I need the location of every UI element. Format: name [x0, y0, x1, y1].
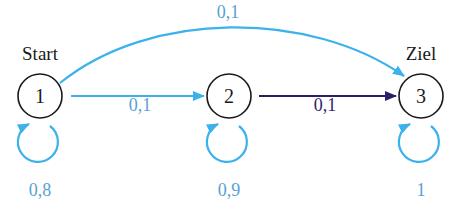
self-loop-2: 0,9 — [207, 124, 247, 200]
loop-arrow — [399, 124, 439, 162]
node-3: 3 Ziel — [399, 43, 443, 118]
edge-2-to-3: 0,1 — [259, 95, 396, 115]
markov-chain-diagram: 0,1 0,1 0,1 0,8 0,9 1 1 Start 2 3 Ziel — [0, 0, 454, 208]
loop-arrow — [207, 124, 247, 162]
edge-1-to-3: 0,1 — [60, 2, 404, 83]
edge-label-1-3: 0,1 — [217, 2, 240, 22]
loop-label-1: 0,8 — [29, 180, 52, 200]
node-number: 2 — [224, 85, 234, 107]
node-number: 3 — [416, 85, 426, 107]
state-name-goal: Ziel — [406, 43, 437, 64]
state-name-start: Start — [22, 43, 59, 64]
edge-label-2-3: 0,1 — [314, 95, 337, 115]
self-loop-1: 0,8 — [18, 124, 58, 200]
loop-arrow — [18, 124, 58, 162]
loop-label-3: 1 — [417, 180, 426, 200]
node-2: 2 — [207, 74, 251, 118]
edge-label-1-2: 0,1 — [129, 95, 152, 115]
node-number: 1 — [35, 85, 45, 107]
loop-label-2: 0,9 — [218, 180, 241, 200]
self-loop-3: 1 — [399, 124, 439, 200]
edge-1-to-2: 0,1 — [71, 95, 204, 115]
node-1: 1 Start — [18, 43, 62, 118]
